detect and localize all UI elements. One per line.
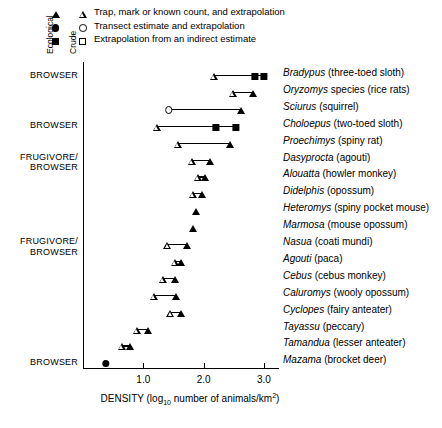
species-common-name: (spiny rat) [335, 135, 382, 146]
species-genus: Agouti [283, 253, 311, 264]
crude-estimate-marker [210, 66, 218, 84]
data-row: Tamandua (lesser anteater) [0, 337, 442, 354]
species-genus: Didelphis [283, 185, 324, 196]
open-triangle-icon [133, 327, 141, 334]
species-label: Dasyprocta (agouti) [283, 152, 370, 163]
filled-triangle-icon [237, 107, 245, 114]
crude-estimate-marker [165, 100, 173, 118]
data-row: Sciurus (squirrel) [0, 101, 442, 118]
open-triangle-icon [188, 158, 196, 165]
ecological-estimate-marker [144, 320, 152, 338]
species-common-name: (paca) [311, 253, 342, 264]
range-line [178, 143, 230, 144]
x-axis-tick-label: 2.0 [184, 374, 224, 385]
open-triangle-icon [210, 73, 218, 80]
ecological-estimate-marker [249, 83, 257, 101]
species-common-name: (wooly opossum) [331, 287, 409, 298]
filled-triangle-icon [177, 310, 185, 317]
open-triangle-icon [118, 343, 126, 350]
species-genus: Bradypus [283, 67, 325, 78]
species-common-name: (opossum) [324, 185, 374, 196]
data-row: Agouti (paca) [0, 253, 442, 270]
ecological-estimate-marker [177, 303, 185, 321]
species-label: Oryzomys species (rice rats) [283, 84, 410, 95]
range-line [157, 126, 236, 127]
filled-triangle-icon [144, 327, 152, 334]
data-row: Cyclopes (fairy anteater) [0, 304, 442, 321]
species-genus: Dasyprocta [283, 152, 334, 163]
data-row: Cebus (cebus monkey) [0, 270, 442, 287]
data-row: Tayassu (peccary) [0, 321, 442, 338]
crude-estimate-marker [166, 303, 174, 321]
filled-triangle-icon [183, 242, 191, 249]
species-genus: Alouatta [283, 168, 320, 179]
filled-triangle-icon [126, 343, 134, 350]
data-row: Marmosa (mouse opossum) [0, 219, 442, 236]
crude-estimate-marker [153, 117, 161, 135]
crude-estimate-marker [163, 235, 171, 253]
species-label: Caluromys (wooly opossum) [283, 287, 409, 298]
crude-estimate-marker [174, 134, 182, 152]
data-row: Proechimys (spiny rat) [0, 135, 442, 152]
open-triangle-icon [153, 124, 161, 131]
ecological-estimate-marker [206, 151, 214, 169]
open-circle-icon [165, 106, 173, 114]
ecological-estimate-marker [226, 134, 234, 152]
open-triangle-icon [150, 293, 158, 300]
species-common-name: (spiny pocket mouse) [331, 202, 429, 213]
filled-triangle-icon [226, 141, 234, 148]
x-axis-title-mid: number of animals/km [171, 393, 272, 404]
crude-estimate-marker [229, 83, 237, 101]
species-common-name: (squirrel) [316, 101, 358, 112]
species-genus: Tayassu [283, 321, 320, 332]
filled-triangle-icon [172, 293, 180, 300]
filled-square-icon [251, 73, 258, 80]
species-label: Tayassu (peccary) [283, 321, 364, 332]
data-row: Nasua (coati mundi) [0, 236, 442, 253]
data-row: Oryzomys species (rice rats) [0, 84, 442, 101]
species-label: Agouti (paca) [283, 253, 342, 264]
species-genus: Heteromys [283, 202, 331, 213]
filled-square-icon [232, 124, 239, 131]
ecological-estimate-marker [183, 235, 191, 253]
crude-estimate-marker [133, 320, 141, 338]
data-row: Didelphis (opossum) [0, 185, 442, 202]
species-genus: Choloepus [283, 118, 331, 129]
species-label: Didelphis (opossum) [283, 185, 374, 196]
species-common-name: (coati mundi) [312, 236, 373, 247]
crude-estimate-marker [189, 184, 197, 202]
ecological-estimate-marker [189, 218, 197, 236]
species-common-name: (three-toed sloth) [325, 67, 404, 78]
species-common-name: (cebus monkey) [312, 270, 386, 281]
species-label: Mazama (brocket deer) [283, 354, 386, 365]
filled-triangle-icon [192, 208, 200, 215]
crude-estimate-marker [159, 269, 167, 287]
x-axis-tick-label: 1.0 [123, 374, 163, 385]
data-row: Bradypus (three-toed sloth) [0, 67, 442, 84]
open-triangle-icon [174, 141, 182, 148]
open-triangle-icon [163, 242, 171, 249]
data-row: Heteromys (spiny pocket mouse) [0, 202, 442, 219]
species-genus: Tamandua [283, 337, 330, 348]
species-label: Choloepus (two-toed sloth) [283, 118, 403, 129]
species-genus: Oryzomys [283, 84, 328, 95]
species-common-name: (brocket deer) [321, 354, 386, 365]
species-label: Heteromys (spiny pocket mouse) [283, 202, 429, 213]
x-axis-tick-label: 3.0 [244, 374, 284, 385]
plot-area: 1.02.03.0 BROWSERBROWSERFRUGIVORE/BROWSE… [0, 0, 442, 428]
ecological-estimate-marker [177, 252, 185, 270]
data-row: Choloepus (two-toed sloth) [0, 118, 442, 135]
crude-estimate-marker [118, 336, 126, 354]
species-common-name: (two-toed sloth) [331, 118, 403, 129]
species-genus: Caluromys [283, 287, 331, 298]
data-row: Dasyprocta (agouti) [0, 152, 442, 169]
species-label: Nasua (coati mundi) [283, 236, 372, 247]
filled-triangle-icon [249, 90, 257, 97]
filled-circle-icon [102, 360, 109, 367]
species-label: Bradypus (three-toed sloth) [283, 67, 404, 78]
ecological-estimate-marker [126, 336, 134, 354]
filled-square-icon [260, 73, 267, 80]
ecological-estimate-marker [260, 66, 267, 84]
ecological-estimate-marker [201, 167, 209, 185]
species-common-name: (agouti) [334, 152, 371, 163]
